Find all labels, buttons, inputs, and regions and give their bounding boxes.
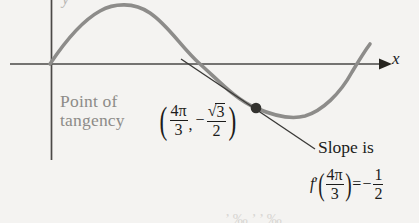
derivative-arg-denominator: 3 (326, 186, 344, 202)
coords-y-radicand: 3 (215, 103, 225, 120)
coords-x-fraction: 4π 3 (170, 103, 188, 139)
derivative-result-fraction: 1 2 (373, 167, 383, 203)
tangency-caption-line2: tangency (60, 111, 125, 129)
coords-y-sign: − (196, 112, 206, 129)
coords-comma: , (189, 117, 196, 134)
coords-x-numerator: 4π (170, 103, 188, 119)
coords-x-denominator: 3 (170, 122, 188, 138)
y-axis-label: y (62, 0, 69, 8)
cropped-bottom-text: ’ ‰ ’ ’ ‰ (225, 212, 282, 223)
derivative-arg-numerator: 4π (326, 167, 344, 183)
coords-close-paren: ) (229, 101, 237, 140)
derivative-arg-fraction: 4π 3 (326, 167, 344, 203)
tangency-point-dot (251, 103, 262, 114)
derivative-open-paren: ( (318, 168, 324, 202)
point-of-tangency-caption: Point of tangency (60, 92, 125, 130)
coords-y-fraction: √3 2 (207, 102, 227, 139)
coords-y-radical-group: √3 (207, 102, 227, 119)
derivative-result-sign: − (362, 176, 372, 193)
derivative-equation: f′( 4π 3 )=− 1 2 (310, 168, 384, 204)
slope-caption: Slope is (318, 138, 374, 156)
figure-container: x y Point of tangency ( 4π 3 ,− √3 2 ) S… (0, 0, 419, 223)
tangency-caption-line1: Point of (60, 91, 118, 111)
x-axis-label: x (392, 50, 400, 68)
derivative-result-denominator: 2 (373, 186, 383, 202)
derivative-close-paren: ) (345, 168, 351, 202)
derivative-result-numerator: 1 (373, 167, 383, 183)
coords-open-paren: ( (159, 101, 167, 140)
derivative-equals-sign: = (351, 176, 362, 193)
point-coordinates-label: ( 4π 3 ,− √3 2 ) (158, 102, 238, 141)
coords-y-denominator: 2 (207, 123, 227, 139)
x-axis-arrowhead (379, 59, 392, 70)
